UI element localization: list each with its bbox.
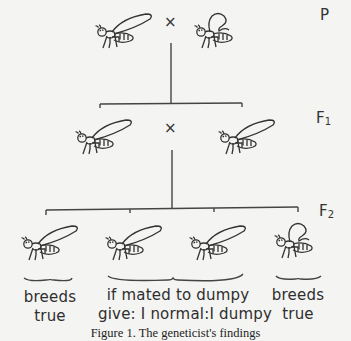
- generation-label-f2-sub: 2: [328, 209, 334, 220]
- f2-fly-2-icon: [106, 226, 162, 260]
- middle-brace: [108, 274, 243, 281]
- right-annotation: breeds true: [268, 286, 328, 324]
- middle-annotation-line2: give: I normal:I dumpy: [98, 305, 258, 324]
- middle-annotation-line1: if mated to dumpy: [98, 286, 258, 305]
- generation-label-f2-text: F: [319, 202, 328, 220]
- generation-label-f1-sub: 1: [325, 116, 331, 127]
- f2-fly-3-icon: [190, 226, 246, 260]
- f1-fly-1-icon: [76, 120, 132, 154]
- f1-cross-symbol: ×: [164, 121, 177, 136]
- right-annotation-line2: true: [268, 305, 328, 324]
- f1-fly-2-icon: [219, 120, 275, 154]
- f1-bracket: [100, 103, 242, 104]
- p-fly-dumpy-icon: [195, 14, 233, 49]
- left-annotation-line1: breeds: [20, 288, 80, 307]
- f2-fly-4-dumpy-icon: [275, 224, 313, 259]
- left-annotation-line2: true: [20, 307, 80, 326]
- right-brace: [276, 276, 321, 279]
- middle-annotation: if mated to dumpy give: I normal:I dumpy: [98, 286, 258, 324]
- f2-fly-1-icon: [22, 226, 78, 260]
- p-cross-symbol: ×: [164, 15, 177, 30]
- left-brace: [24, 278, 72, 281]
- generation-label-p: P: [320, 8, 329, 23]
- figure-caption: Figure 1. The geneticist's findings: [0, 326, 351, 341]
- generation-label-f1-text: F: [316, 109, 325, 127]
- right-annotation-line1: breeds: [268, 286, 328, 305]
- generation-label-f1: F1: [316, 111, 331, 127]
- generation-label-f2: F2: [319, 204, 334, 220]
- p-fly-normal-icon: [96, 14, 152, 48]
- generation-label-p-text: P: [320, 6, 329, 24]
- left-annotation: breeds true: [20, 288, 80, 326]
